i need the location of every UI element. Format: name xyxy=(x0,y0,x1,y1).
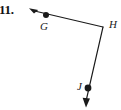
arrowhead-ray-HG-icon xyxy=(29,8,38,13)
point-label-J: J xyxy=(77,81,82,92)
geometry-figure: 11. G H J xyxy=(0,0,121,110)
point-marker-G xyxy=(43,12,49,18)
point-label-G: G xyxy=(40,21,48,32)
point-marker-J xyxy=(85,85,92,92)
angle-diagram-svg xyxy=(0,0,121,110)
point-label-H: H xyxy=(109,19,117,30)
arrowhead-ray-HJ-icon xyxy=(83,98,90,108)
